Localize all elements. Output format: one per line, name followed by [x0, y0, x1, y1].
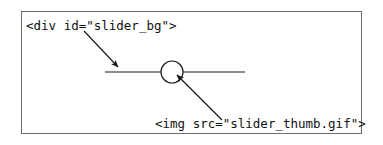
slider-annotation-figure: <div id="slider_bg"> <img src="slider_th…: [0, 0, 383, 145]
slider-bg-arrow: [84, 31, 118, 67]
slider-thumb-code-label: <img src="slider_thumb.gif">: [155, 117, 366, 131]
slider-thumb-circle: [161, 61, 183, 83]
slider-bg-code-label: <div id="slider_bg">: [26, 19, 177, 33]
slider-thumb-arrow: [177, 75, 222, 120]
